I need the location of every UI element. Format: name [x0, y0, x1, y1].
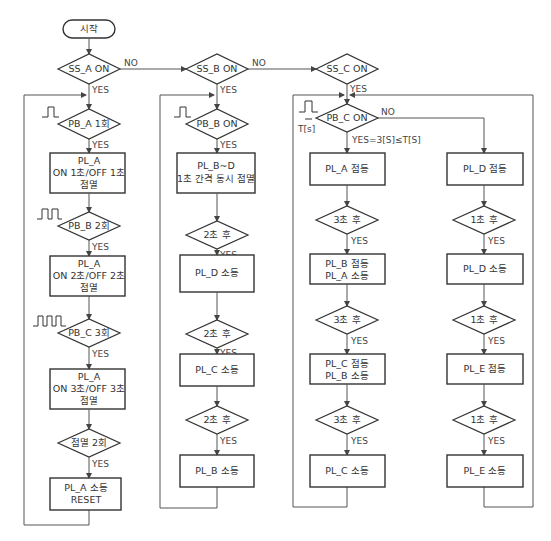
process-text: 점멸 — [80, 179, 98, 190]
yes-label: YES — [350, 336, 368, 346]
yes-label: YES — [487, 236, 505, 246]
yes-label: YES — [219, 436, 237, 446]
decision-blink-2-label: 점멸 2회 — [71, 437, 107, 448]
yes-label: YES — [219, 140, 237, 150]
decision-ss-a-on-label: SS_A ON — [69, 63, 110, 74]
yes-label: YES — [350, 436, 368, 446]
decision-label: 1초 후 — [470, 414, 497, 425]
process-text: 점멸 — [80, 395, 98, 406]
yes-label: YES — [91, 140, 109, 150]
decision-label: 2초 후 — [203, 229, 230, 240]
column-a: 시작 SS_A ON YES PB_A 1회 YES PL_A ON 1초/OF… — [24, 20, 125, 525]
decision-pb-b-on-label: PB_B ON — [196, 118, 237, 129]
process-text: PL_A 점등 — [325, 163, 368, 174]
decision-pb-c-3-label: PB_C 3회 — [68, 327, 110, 338]
no-label: NO — [124, 58, 138, 68]
process-text: ON 2초/OFF 2초 — [53, 270, 125, 281]
process-text: PL_D 점등 — [463, 163, 507, 174]
no-label: NO — [381, 107, 395, 117]
process-text: PL_C 소등 — [195, 364, 238, 375]
yes-label: YES — [91, 242, 109, 252]
yes-label: YES — [219, 85, 237, 95]
decision-ss-c-on-label: SS_C ON — [326, 63, 367, 74]
pulse-1-icon — [42, 107, 59, 117]
process-text: 1초 간격 동시 점멸 — [177, 173, 255, 184]
yes-label: YES — [349, 84, 367, 94]
process-text: PL_C 소등 — [325, 465, 368, 476]
yes-condition-label: YES=3[S]≤T[S] — [351, 135, 421, 145]
yes-label: YES — [350, 236, 368, 246]
process-text: PL_A 소등 — [64, 482, 107, 493]
process-text: PL_A — [78, 155, 101, 166]
decision-label: 2초 후 — [203, 414, 230, 425]
tsec-label: T[s] — [297, 124, 315, 134]
start-label: 시작 — [80, 23, 98, 34]
column-b: SS_B ON YES PB_B ON YES PL_B~D 1초 간격 동시 … — [160, 54, 255, 508]
process-text: PL_B 점등 — [325, 258, 368, 269]
decision-label: 3초 후 — [333, 214, 360, 225]
decision-pb-b-2-label: PB_B 2회 — [68, 220, 110, 231]
pulse-3-icon — [33, 316, 66, 326]
decision-label: 3초 후 — [333, 414, 360, 425]
process-text: PL_A 소등 — [325, 270, 368, 281]
yes-label: YES — [91, 349, 109, 359]
decision-pb-a-1-label: PB_A 1회 — [68, 118, 110, 129]
pulse-icon — [174, 107, 191, 117]
pulse-long-icon — [299, 101, 318, 112]
process-text: PL_A — [78, 371, 101, 382]
no-label: NO — [252, 58, 266, 68]
process-text: PL_D 소등 — [195, 267, 239, 278]
process-text: PL_E 소등 — [464, 465, 507, 476]
process-text: PL_A — [78, 258, 101, 269]
decision-label: 1초 후 — [470, 214, 497, 225]
process-text: PL_C 점등 — [325, 358, 368, 369]
process-text: RESET — [71, 494, 102, 505]
pulse-2-icon — [37, 209, 62, 219]
process-text: ON 3초/OFF 3초 — [53, 383, 125, 394]
decision-label: 2초 후 — [203, 328, 230, 339]
process-text: PL_D 소등 — [463, 263, 507, 274]
yes-label: YES — [487, 336, 505, 346]
yes-label: YES — [91, 459, 109, 469]
process-text: PL_B 소등 — [325, 370, 368, 381]
yes-label: YES — [487, 436, 505, 446]
process-text: PL_B~D — [197, 160, 235, 171]
flowchart: 시작 SS_A ON YES PB_A 1회 YES PL_A ON 1초/OF… — [0, 0, 551, 541]
decision-ss-b-on-label: SS_B ON — [197, 63, 238, 74]
process-text: 점멸 — [80, 282, 98, 293]
decision-label: 1초 후 — [470, 314, 497, 325]
decision-pb-c-on-label: PB_C ON — [326, 112, 367, 123]
process-text: PL_B 소등 — [195, 465, 238, 476]
column-c: SS_C ON YES T[s] PB_C ON YES=3[S]≤T[S] N… — [293, 54, 533, 507]
process-text: PL_E 점등 — [464, 363, 507, 374]
process-text: ON 1초/OFF 1초 — [53, 167, 125, 178]
yes-label: YES — [91, 85, 109, 95]
decision-label: 3초 후 — [333, 314, 360, 325]
